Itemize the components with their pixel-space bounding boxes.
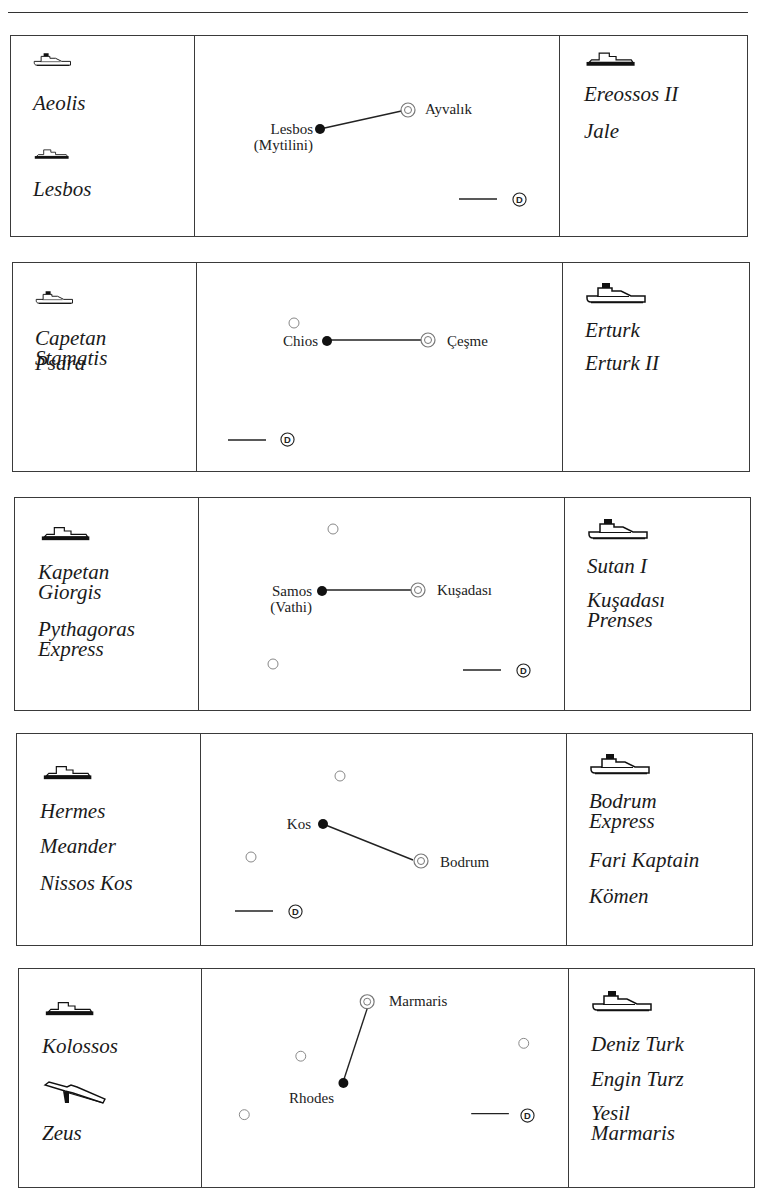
turkish-ships-column: Bodrum Express Fari Kaptain Kömen [566,734,752,945]
ferry-solid-hull-icon [41,765,95,780]
header-rule [8,12,748,13]
ship-name: Erturk [585,320,640,340]
turkish-ships-column: Sutan I Kuşadası Prenses [564,498,750,710]
greek-port-sublabel: (Vathi) [270,599,312,615]
ferry-solid-hull-icon [43,1001,97,1016]
circled-D-icon [516,663,531,678]
turkish-ships-column: Erturk Erturk II [562,263,749,471]
route-map: Rhodes Marmaris [202,969,570,1187]
ship-name: Kapetan Giorgis [38,562,109,602]
ferry-outline-icon [587,518,651,540]
turkish-port-label: Çeşme [447,333,488,349]
greek-port-label: Samos [272,583,312,599]
turkish-port-label: Marmaris [389,993,447,1009]
ship-name: Pythagoras Express [38,619,135,659]
route-panel-kos-bodrum: Hermes Meander Nissos Kos Kos Bodrum Bod… [16,733,753,946]
ferry-outline-icon [585,282,649,304]
route-map: Kos Bodrum [201,734,568,945]
greek-ships-column: Aeolis Lesbos [11,36,195,236]
ship-name: Kolossos [42,1036,118,1056]
ship-name: Meander [40,836,116,856]
route-map-graphic [202,969,570,1187]
route-panel-samos-kusadasi: Kapetan Giorgis Pythagoras Express Samos… [14,497,751,711]
other-island-icon [289,318,299,328]
route-map-graphic [197,263,565,471]
greek-port-label: Chios [283,333,318,349]
ship-name: Engin Turz [591,1069,684,1089]
ship-name: Sutan I [587,556,647,576]
ship-name: Ereossos II [584,84,678,104]
greek-ships-column: Kapetan Giorgis Pythagoras Express [15,498,199,710]
turkish-port-label: Kuşadası [437,582,492,598]
turkish-port-label: Ayvalık [425,101,472,117]
ship-name: Psara [35,353,85,373]
hydrofoil-icon [43,1081,107,1109]
ship-name: Kömen [589,886,649,906]
ship-name: Zeus [42,1123,82,1143]
route-panel-chios-cesme: Capetan Stamatis Psara Chios Çeşme Ertur… [12,262,750,472]
circled-D-icon [288,904,303,919]
greek-ships-column: Capetan Stamatis Psara [13,263,197,471]
ship-name: Yesil Marmaris [591,1103,675,1143]
ship-name: Erturk II [585,353,659,373]
route-map-graphic [195,36,562,236]
route-panel-lesbos-ayvalik: Aeolis Lesbos Lesbos (Mytilini) Ayvalık … [10,35,748,237]
route-map: Chios Çeşme [197,263,565,471]
greek-port-label: Lesbos [271,121,314,137]
ship-name: Hermes [40,801,105,821]
greek-port-sublabel: (Mytilini) [254,137,313,153]
ship-name: Bodrum Express [589,791,657,831]
ferry-outline-icon [589,753,653,775]
greek-ships-column: Hermes Meander Nissos Kos [17,734,201,945]
ferry-outline-icon [591,990,655,1012]
route-map: Samos (Vathi) Kuşadası [199,498,566,710]
turkish-ships-column: Deniz Turk Engin Turz Yesil Marmaris [568,969,754,1187]
route-map: Lesbos (Mytilini) Ayvalık [195,36,562,236]
greek-ships-column: Kolossos Zeus [19,969,202,1187]
ship-name: Aeolis [33,93,86,113]
route-map-graphic [201,734,568,945]
ship-name: Lesbos [33,179,91,199]
ship-name: Deniz Turk [591,1034,684,1054]
ferry-outline-icon [35,290,75,305]
ship-name: Kuşadası Prenses [587,590,665,630]
ferry-solid-hull-icon [39,526,93,541]
turkish-port-label: Bodrum [440,854,489,870]
ferry-solid-hull-icon [33,148,71,160]
greek-port-label: Kos [287,816,311,832]
route-panel-rhodes-marmaris: Kolossos Zeus Rhodes Marmaris Deniz Turk… [18,968,755,1188]
ferry-solid-hull-icon [584,51,638,67]
turkish-ships-column: Ereossos II Jale [559,36,747,236]
ship-name: Fari Kaptain [589,850,699,870]
route-map-graphic [199,498,566,710]
greek-port-label: Rhodes [289,1090,334,1106]
circled-D-icon [520,1108,535,1123]
circled-D-icon [512,192,527,207]
ship-name: Jale [584,121,619,141]
greek-port-dot [315,124,325,134]
ship-name: Nissos Kos [40,873,133,893]
ferry-outline-icon [33,52,73,67]
circled-D-icon [280,432,295,447]
